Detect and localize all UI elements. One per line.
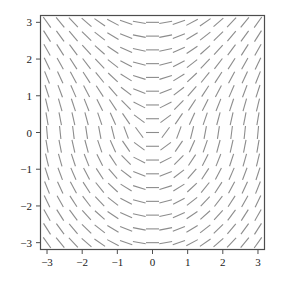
x-tick-label: −2 bbox=[76, 256, 88, 268]
plot-canvas: −3−2−10123 −3−2−10123 bbox=[0, 0, 281, 287]
y-axis-ticks bbox=[36, 22, 40, 242]
y-tick-label: −3 bbox=[20, 237, 32, 249]
x-tick-label: −1 bbox=[111, 256, 123, 268]
y-tick-label: 3 bbox=[27, 16, 33, 28]
x-tick-label: 0 bbox=[150, 256, 156, 268]
x-axis-ticks bbox=[47, 250, 258, 254]
y-tick-label: −1 bbox=[20, 163, 32, 175]
x-tick-label: 3 bbox=[255, 256, 261, 268]
y-tick-label: −2 bbox=[20, 200, 32, 212]
x-axis-tick-labels: −3−2−10123 bbox=[41, 256, 261, 268]
x-tick-label: 1 bbox=[185, 256, 191, 268]
y-tick-label: 1 bbox=[27, 90, 33, 102]
x-tick-label: −3 bbox=[41, 256, 53, 268]
direction-field-figure: −3−2−10123 −3−2−10123 bbox=[0, 0, 281, 287]
x-tick-label: 2 bbox=[220, 256, 226, 268]
y-tick-label: 2 bbox=[27, 53, 33, 65]
y-tick-label: 0 bbox=[27, 127, 33, 139]
direction-field-segments bbox=[43, 17, 261, 248]
y-axis-tick-labels: −3−2−10123 bbox=[20, 16, 32, 248]
